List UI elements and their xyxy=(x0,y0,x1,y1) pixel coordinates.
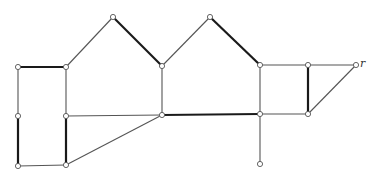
node-g xyxy=(305,62,310,67)
edge-d-e xyxy=(162,17,210,66)
node-j xyxy=(159,112,164,117)
edge-l-r xyxy=(308,65,356,114)
node-b xyxy=(63,64,68,69)
node-d xyxy=(159,63,164,68)
node-r xyxy=(353,62,358,67)
node-f xyxy=(257,62,262,67)
node-label-r: r xyxy=(360,57,366,70)
node-i xyxy=(63,113,68,118)
node-e xyxy=(207,14,212,19)
edge-i-j xyxy=(66,115,162,116)
edge-b-c xyxy=(66,17,113,67)
node-h xyxy=(15,113,20,118)
labels-group: r xyxy=(360,57,366,70)
edges-group xyxy=(18,17,356,166)
node-a xyxy=(15,64,20,69)
node-m xyxy=(15,163,20,168)
edge-e-f xyxy=(210,17,260,65)
edge-j-k xyxy=(162,114,260,115)
node-k xyxy=(257,111,262,116)
edge-n-j xyxy=(66,115,162,165)
node-n xyxy=(63,162,68,167)
node-c xyxy=(110,14,115,19)
node-o xyxy=(257,161,262,166)
edge-c-d xyxy=(113,17,162,66)
edge-m-n xyxy=(18,165,66,166)
graph-diagram: r xyxy=(0,0,373,180)
node-l xyxy=(305,111,310,116)
